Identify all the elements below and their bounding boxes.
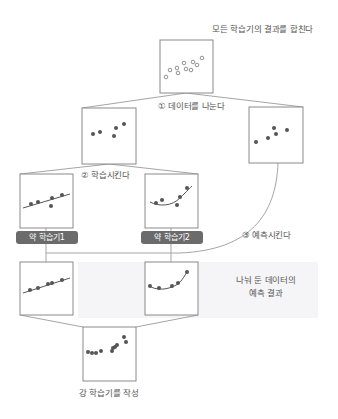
prediction-label-line1: 나눠 둔 데이터의: [224, 273, 308, 285]
merge-label: 모든 학습기의 결과를 합친다: [212, 22, 313, 34]
connector-lines: [0, 0, 338, 419]
weak-learner-2-box: [145, 174, 198, 228]
weak-learner-1-tag: 약 학습기1: [16, 231, 78, 244]
step1-label: ① 데이터를 나눈다: [158, 99, 225, 111]
step3-label: ③ 예측시킨다: [242, 228, 291, 240]
prediction-2-box: [145, 262, 198, 315]
final-label: 강 학습기를 작성: [64, 386, 154, 398]
prediction-label-line2: 예측 결과: [224, 286, 308, 298]
split-data-box-1: [82, 108, 136, 164]
step2-label: ② 학습시킨다: [81, 168, 130, 180]
prediction-1-box: [20, 262, 73, 315]
merged-results-box: [160, 40, 213, 93]
stacking-diagram: 모든 학습기의 결과를 합친다 ① 데이터를 나눈다 ② 학습시킨다 ③ 예측시…: [0, 0, 338, 419]
weak-learner-2-tag: 약 학습기2: [141, 231, 203, 244]
